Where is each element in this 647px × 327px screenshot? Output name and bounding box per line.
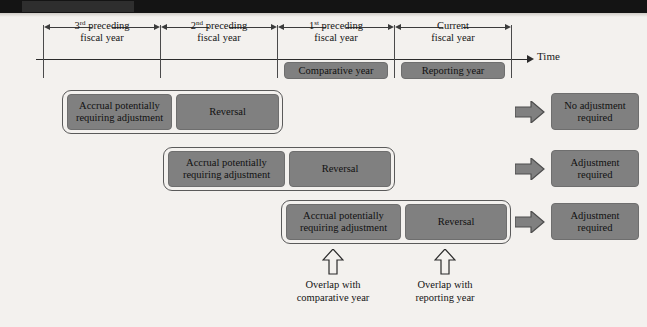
timeline-span-current: Current fiscal year xyxy=(395,20,511,50)
scenario-1-reversal-box: Reversal xyxy=(176,94,279,130)
scenario-3-accrual-label: Accrual potentially requiring adjustment xyxy=(300,210,387,234)
period-box-reporting-year: Reporting year xyxy=(401,62,505,79)
timeline-tick-4 xyxy=(511,25,512,78)
result-arrow-3-icon xyxy=(515,211,545,233)
overlap-annotation-2: Overlap with reporting year xyxy=(385,279,505,304)
outcome-box-3: Adjustment required xyxy=(551,203,639,240)
outcome-label-1: No adjustment required xyxy=(564,100,626,124)
period-box-comparative-year: Comparative year xyxy=(284,62,388,79)
overlap-up-arrow-1-icon xyxy=(322,249,344,275)
top-banner xyxy=(0,0,647,13)
outcome-label-3: Adjustment required xyxy=(571,210,620,234)
time-axis-label: Time xyxy=(537,50,560,62)
timeline-span-label-0: 3rd preceding fiscal year xyxy=(44,20,160,44)
scenario-3-accrual-box: Accrual potentially requiring adjustment xyxy=(286,204,401,240)
outcome-box-1: No adjustment required xyxy=(551,93,639,130)
outcome-box-2: Adjustment required xyxy=(551,150,639,187)
diagram-page: Time 3rd preceding fiscal year 2nd prece… xyxy=(0,0,647,327)
scenario-2-accrual-box: Accrual potentially requiring adjustment xyxy=(168,151,285,187)
scenario-2-accrual-label: Accrual potentially requiring adjustment xyxy=(183,157,270,181)
time-axis-arrowhead xyxy=(527,55,534,63)
timeline-span-label-2: 1st preceding fiscal year xyxy=(278,20,394,44)
scenario-1-accrual-label: Accrual potentially requiring adjustment xyxy=(76,100,163,124)
overlap-annotation-1: Overlap with comparative year xyxy=(273,279,393,304)
timeline-span-label-3: Current fiscal year xyxy=(395,20,511,44)
outcome-label-2: Adjustment required xyxy=(571,157,620,181)
banner-tag xyxy=(22,1,134,12)
overlap-up-arrow-2-icon xyxy=(434,249,456,275)
scenario-1-accrual-box: Accrual potentially requiring adjustment xyxy=(67,94,172,130)
timeline-span-3rd-preceding: 3rd preceding fiscal year xyxy=(44,20,160,50)
time-axis-line xyxy=(36,59,528,60)
banner-shadow xyxy=(0,13,647,17)
result-arrow-1-icon xyxy=(515,101,545,123)
scenario-3-reversal-box: Reversal xyxy=(405,204,507,240)
timeline-span-2nd-preceding: 2nd preceding fiscal year xyxy=(161,20,277,50)
timeline-span-1st-preceding: 1st preceding fiscal year xyxy=(278,20,394,50)
timeline-span-label-1: 2nd preceding fiscal year xyxy=(161,20,277,44)
scenario-2-reversal-box: Reversal xyxy=(289,151,391,187)
result-arrow-2-icon xyxy=(515,158,545,180)
